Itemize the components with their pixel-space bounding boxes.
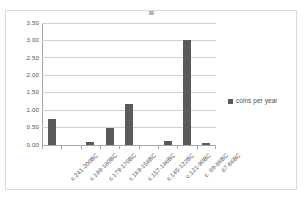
chart-legend: coins per year [228, 98, 278, 104]
x-axis-tick [42, 146, 43, 149]
chart-container: 0.000.501.001.502.002.503.003.50 c.241-2… [5, 10, 297, 190]
y-axis-tick-label: 0.50 [9, 124, 39, 130]
bar-series [42, 23, 216, 145]
x-axis-tick [177, 146, 178, 149]
x-axis-tick [139, 146, 140, 149]
top-edge-artifact [149, 11, 154, 15]
x-axis-tick [197, 146, 198, 149]
x-axis-tick [215, 146, 216, 149]
x-axis-tick [81, 146, 82, 149]
x-axis-tick [119, 146, 120, 149]
bar [86, 142, 94, 145]
y-axis-tick-label: 1.50 [9, 89, 39, 95]
bar [125, 104, 133, 145]
bar [164, 141, 172, 145]
y-axis-tick-label: 0.00 [9, 142, 39, 148]
legend-color-swatch [228, 99, 233, 104]
y-axis-tick-label: 3.00 [9, 37, 39, 43]
x-axis-tick [158, 146, 159, 149]
legend-label: coins per year [236, 98, 278, 104]
x-axis-tick [61, 146, 62, 149]
x-axis-tick [100, 146, 101, 149]
bar [202, 143, 210, 145]
x-axis-tick-labels: c.241-200BCc.199-180BCc.179-170BCc.169-1… [42, 150, 216, 192]
y-axis-tick-label: 2.00 [9, 72, 39, 78]
y-axis-tick-label: 3.50 [9, 20, 39, 26]
plot-area [42, 23, 216, 145]
bar [48, 119, 56, 145]
y-axis-tick-label: 2.50 [9, 55, 39, 61]
y-axis-tick-label: 1.00 [9, 107, 39, 113]
bar [183, 40, 191, 145]
y-axis-tick-labels: 0.000.501.001.502.002.503.003.50 [6, 11, 39, 191]
bar [106, 128, 114, 145]
